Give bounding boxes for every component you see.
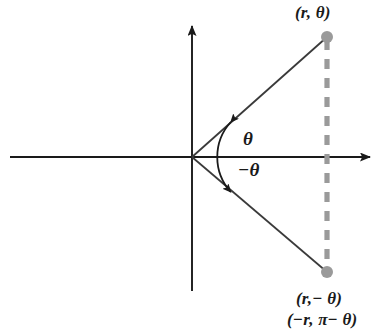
point-marker-upper <box>321 31 333 43</box>
diagram-canvas <box>0 0 385 335</box>
label-point-lower-secondary: (−r, π− θ) <box>287 311 357 328</box>
point-marker-lower <box>321 266 333 278</box>
ray-positive-theta <box>192 37 327 157</box>
label-point-lower-primary: (r,− θ) <box>296 290 342 307</box>
polar-coordinate-figure: (r, θ) (r,− θ) (−r, π− θ) θ −θ <box>0 0 385 335</box>
label-angle-positive: θ <box>243 129 253 148</box>
label-point-upper: (r, θ) <box>295 4 331 21</box>
ray-negative-theta <box>192 157 327 272</box>
label-angle-negative: −θ <box>238 160 259 179</box>
